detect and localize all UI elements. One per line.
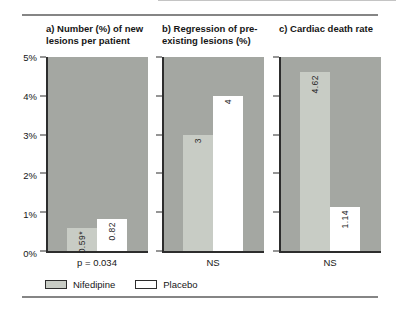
panel-a-plot: 0.59* 0.82 <box>46 57 148 253</box>
axis-tick <box>40 57 46 58</box>
panel-c-placebo-value-label: 1.14 <box>340 210 350 229</box>
y-axis-label-1pct: 1% <box>23 208 37 219</box>
panel-a-bar-nifedipine: 0.59* <box>67 228 97 251</box>
panel-b-placebo-value-label: 4 <box>223 99 233 104</box>
panel-c-title-line1: c) Cardiac death rate <box>279 23 393 35</box>
panel-a-note: p = 0.034 <box>46 257 148 268</box>
axis-tick <box>156 251 162 252</box>
axis-tick <box>273 173 279 174</box>
panel-b-bar-placebo: 4 <box>213 96 243 251</box>
y-axis-label-2pct: 2% <box>23 169 37 180</box>
axis-tick <box>273 134 279 135</box>
axis-tick <box>273 57 279 58</box>
panel-a-title-line1: a) Number (%) of new <box>46 23 160 35</box>
panel-b-bar-nifedipine: 3 <box>183 135 213 251</box>
panel-a-bar-placebo: 0.82 <box>97 219 127 251</box>
panel-a-title-line2: lesions per patient <box>46 35 160 47</box>
panel-c-bar-placebo: 1.14 <box>330 207 360 251</box>
panel-a-placebo-value-label: 0.82 <box>107 222 117 241</box>
legend: Nifedipine Placebo <box>45 277 198 291</box>
axis-tick <box>156 57 162 58</box>
axis-tick <box>40 173 46 174</box>
panel-c-title: c) Cardiac death rate <box>279 23 393 35</box>
panel-c-bar-nifedipine: 4.62 <box>300 72 330 251</box>
y-axis-label-0pct: 0% <box>23 248 37 259</box>
panel-a-title: a) Number (%) of new lesions per patient <box>46 23 160 47</box>
y-axis-labels: 5% 4% 3% 2% 1% 0% <box>0 0 40 315</box>
top-edge-line <box>158 0 396 1</box>
axis-tick <box>156 134 162 135</box>
panel-b-title-line2: existing lesions (%) <box>162 35 276 47</box>
panel-b-note: NS <box>162 257 264 268</box>
figure-three-panel-bar-chart: a) Number (%) of new lesions per patient… <box>0 0 400 315</box>
axis-tick <box>273 251 279 252</box>
axis-tick <box>40 134 46 135</box>
legend-swatch-nifedipine <box>45 280 67 289</box>
panel-c-plot: 4.62 1.14 <box>279 57 381 253</box>
panel-b-title-line1: b) Regression of pre- <box>162 23 276 35</box>
panel-b-plot: 3 4 <box>162 57 264 253</box>
top-rule <box>22 14 378 16</box>
legend-label-placebo: Placebo <box>163 279 197 290</box>
y-axis-label-5pct: 5% <box>23 52 37 63</box>
y-axis-label-4pct: 4% <box>23 91 37 102</box>
bottom-rule <box>22 296 378 298</box>
axis-tick <box>273 95 279 96</box>
panel-c-note: NS <box>279 257 381 268</box>
axis-tick <box>40 95 46 96</box>
axis-tick <box>156 212 162 213</box>
axis-tick <box>273 212 279 213</box>
axis-tick <box>40 251 46 252</box>
axis-tick <box>156 95 162 96</box>
panel-a-nifedipine-value-label: 0.59* <box>77 231 87 253</box>
legend-label-nifedipine: Nifedipine <box>73 279 115 290</box>
panel-c-nifedipine-value-label: 4.62 <box>310 75 320 94</box>
axis-tick <box>156 173 162 174</box>
y-axis-label-3pct: 3% <box>23 130 37 141</box>
legend-swatch-placebo <box>135 280 157 289</box>
panel-b-title: b) Regression of pre- existing lesions (… <box>162 23 276 47</box>
axis-tick <box>40 212 46 213</box>
panel-b-nifedipine-value-label: 3 <box>193 138 203 143</box>
